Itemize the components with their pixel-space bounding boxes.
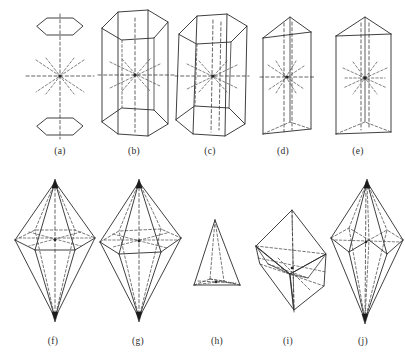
figure-h-trigonal-pyramid [190, 215, 252, 301]
figure-a-hexagonal-dipyramid-open-pair [16, 8, 104, 144]
figure-g-hexagonal-dipyramid-broad [95, 176, 187, 332]
figure-h-drawing [190, 215, 252, 301]
crystal-forms-plate: (a) (b) [0, 0, 405, 358]
figure-j-scalenohedron [325, 176, 405, 332]
caption-e: (e) [352, 146, 363, 156]
caption-f: (f) [48, 336, 58, 346]
figure-g-drawing [95, 176, 187, 332]
caption-c: (c) [204, 146, 215, 156]
figure-b-hexagonal-prism-tall [96, 6, 176, 148]
figure-a-drawing [16, 8, 104, 144]
caption-a: (a) [54, 146, 65, 156]
caption-i: (i) [283, 336, 293, 346]
figure-c-drawing [171, 8, 253, 148]
figure-i-rhombohedron-tilted [248, 202, 334, 328]
caption-d: (d) [277, 146, 289, 156]
figure-d-triangular-prism-narrow [256, 10, 318, 146]
figure-b-drawing [96, 6, 176, 148]
caption-g: (g) [132, 336, 144, 346]
caption-b: (b) [128, 146, 140, 156]
figure-f-hexagonal-dipyramid-slender [9, 176, 101, 332]
figure-e-drawing [329, 10, 399, 146]
figure-j-drawing [325, 176, 405, 332]
figure-c-hexagonal-prism-tilted [171, 8, 253, 148]
figure-e-triangular-prism-wide [329, 10, 399, 146]
figure-d-drawing [256, 10, 318, 146]
figure-i-drawing [248, 202, 334, 328]
caption-j: (j) [358, 336, 368, 346]
figure-f-drawing [9, 176, 101, 332]
caption-h: (h) [211, 336, 223, 346]
